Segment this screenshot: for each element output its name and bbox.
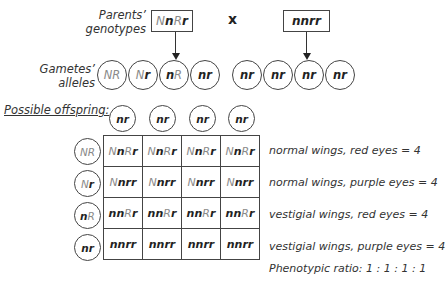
allele-text: N xyxy=(225,145,233,158)
punnett-cell: NnRr xyxy=(143,136,182,167)
allele-text: nnrr xyxy=(292,14,321,28)
allele-text: nn xyxy=(187,207,203,220)
allele-text: nrr xyxy=(235,176,254,189)
parent2-genotype-box: nnrr xyxy=(283,10,330,32)
cross-symbol: x xyxy=(228,11,237,27)
allele-text: nrr xyxy=(157,176,176,189)
allele-text: r xyxy=(210,145,215,158)
allele-text: N xyxy=(227,176,235,189)
allele-text: R xyxy=(163,145,171,158)
label-line: Gametes’ xyxy=(0,62,95,76)
col-header-circle: nr xyxy=(109,105,136,132)
allele-text: R xyxy=(202,207,210,220)
allele-text: r xyxy=(249,207,254,220)
punnett-row: NnrrNnrrNnrrNnrr xyxy=(104,167,260,198)
allele-text: N xyxy=(110,176,118,189)
allele-text: N xyxy=(136,68,145,82)
punnett-cell: nnrr xyxy=(221,229,260,260)
label-line: Parents’ xyxy=(50,8,146,22)
allele-text: r xyxy=(171,207,176,220)
gametes-alleles-label: Gametes’ alleles xyxy=(0,62,95,90)
row-header-circle: nR xyxy=(74,202,101,229)
gamete-circle: Nr xyxy=(128,60,158,90)
allele-text: R xyxy=(202,145,210,158)
punnett-cell: nnrr xyxy=(104,229,143,260)
col-header-circle: nr xyxy=(189,105,216,132)
allele-text: N xyxy=(147,145,155,158)
allele-text: N xyxy=(186,145,194,158)
punnett-cell: Nnrr xyxy=(221,167,260,198)
allele-text: N xyxy=(188,176,196,189)
phenotype-label: normal wings, purple eyes = 4 xyxy=(269,176,438,189)
allele-text: R xyxy=(124,207,132,220)
label-line: alleles xyxy=(0,76,95,90)
gamete-circle: nR xyxy=(159,60,189,90)
phenotypic-ratio: Phenotypic ratio: 1 : 1 : 1 : 1 xyxy=(269,262,426,275)
arrow-line-right xyxy=(306,32,307,54)
allele-text: nnrr xyxy=(227,238,254,251)
allele-text: nnrr xyxy=(188,238,215,251)
gametes-right-row: nr nr nr nr xyxy=(232,60,355,90)
punnett-square: NnRrNnRrNnRrNnRr NnrrNnrrNnrrNnrr nnRrnn… xyxy=(103,135,260,260)
allele-text: n xyxy=(80,210,87,222)
allele-text: r xyxy=(132,145,137,158)
punnett-cell: nnRr xyxy=(104,198,143,229)
row-header-circle: Nr xyxy=(74,170,101,197)
punnett-row: nnRrnnRrnnRrnnRr xyxy=(104,198,260,229)
allele-text: NR xyxy=(80,146,95,158)
punnett-cell: Nnrr xyxy=(143,167,182,198)
gamete-circle: nr xyxy=(190,60,220,90)
punnett-row: nnrrnnrrnnrrnnrr xyxy=(104,229,260,260)
gamete-circle: NR xyxy=(97,60,127,90)
allele-text: N xyxy=(81,178,89,190)
arrow-down-icon xyxy=(172,53,180,60)
punnett-row: NnRrNnRrNnRrNnRr xyxy=(104,136,260,167)
possible-offspring-title: Possible offspring: xyxy=(4,103,109,117)
allele-text: nr xyxy=(198,68,212,82)
allele-text: nn xyxy=(148,207,164,220)
gamete-circle: nr xyxy=(232,60,262,90)
allele-text: R xyxy=(174,14,182,28)
allele-text: N xyxy=(156,14,165,28)
punnett-cell: Nnrr xyxy=(182,167,221,198)
punnett-cell: NnRr xyxy=(182,136,221,167)
arrow-line-left xyxy=(175,32,176,54)
allele-text: R xyxy=(124,145,132,158)
allele-text: nnrr xyxy=(110,238,137,251)
row-header-circle: nr xyxy=(74,234,101,261)
allele-text: nrr xyxy=(118,176,137,189)
allele-text: NR xyxy=(104,68,121,82)
allele-text: r xyxy=(171,145,176,158)
allele-text: r xyxy=(249,145,254,158)
row-header-circle: NR xyxy=(74,138,101,165)
label-line: genotypes xyxy=(50,22,146,36)
parents-genotypes-label: Parents’ genotypes xyxy=(50,8,146,36)
phenotype-label: normal wings, red eyes = 4 xyxy=(269,144,421,157)
punnett-cell: NnRr xyxy=(104,136,143,167)
punnett-cell: nnRr xyxy=(182,198,221,229)
allele-text: r xyxy=(182,14,188,28)
arrow-down-icon xyxy=(303,53,311,60)
allele-text: nnrr xyxy=(149,238,176,251)
allele-text: N xyxy=(149,176,157,189)
allele-text: r xyxy=(132,207,137,220)
col-header-circle: nr xyxy=(149,105,176,132)
allele-text: nn xyxy=(226,207,242,220)
allele-text: r xyxy=(210,207,215,220)
gamete-circle: nr xyxy=(294,60,324,90)
punnett-cell: Nnrr xyxy=(104,167,143,198)
allele-text: n xyxy=(166,68,174,82)
parent1-genotype-box: NnRr xyxy=(151,10,193,32)
punnett-cell: nnrr xyxy=(182,229,221,260)
allele-text: R xyxy=(241,207,249,220)
punnett-cell: nnrr xyxy=(143,229,182,260)
punnett-cell: nnRr xyxy=(143,198,182,229)
allele-text: R xyxy=(163,207,171,220)
col-header-circle: nr xyxy=(228,105,255,132)
phenotype-label: vestigial wings, purple eyes = 4 xyxy=(269,240,445,253)
punnett-cell: NnRr xyxy=(221,136,260,167)
allele-text: R xyxy=(241,145,249,158)
gamete-circle: nr xyxy=(263,60,293,90)
gametes-left-row: NR Nr nR nr xyxy=(97,60,220,90)
gamete-circle: nr xyxy=(325,60,355,90)
